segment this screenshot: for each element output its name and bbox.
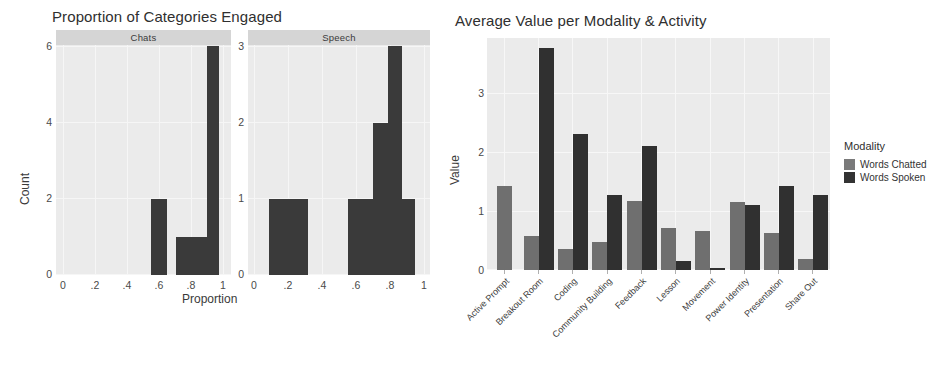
x-tick-label: 1	[220, 279, 226, 291]
bar-words-chatted	[730, 202, 745, 270]
right-chart-y-axis-title: Value	[448, 155, 462, 185]
x-tick-mark	[710, 270, 711, 274]
right-chart: Average Value per Modality & Activity Va…	[452, 0, 942, 388]
bar-words-chatted	[798, 259, 813, 270]
plot-area-speech	[248, 45, 430, 275]
x-tick-label: 0	[251, 279, 257, 291]
gridline	[56, 46, 231, 47]
legend-swatch-words-spoken	[844, 172, 855, 183]
bar-words-spoken	[779, 186, 794, 270]
legend-label: Words Spoken	[860, 172, 925, 183]
x-tick-label: .2	[91, 279, 100, 291]
figure-root: Proportion of Categories Engaged Count P…	[0, 0, 942, 388]
bar-words-spoken	[676, 261, 691, 270]
y-tick-label: 0	[46, 268, 52, 280]
x-tick-label: .4	[318, 279, 327, 291]
gridline	[248, 46, 430, 47]
x-tick-mark	[675, 270, 676, 274]
y-tick-label: 3	[238, 40, 244, 52]
left-chart-x-axis-title: Proportion	[182, 292, 237, 306]
legend-item-words-chatted: Words Chatted	[844, 159, 940, 170]
facet-strip-label: Chats	[131, 32, 157, 43]
plot-area	[487, 38, 830, 270]
legend: Modality Words Chatted Words Spoken	[844, 140, 940, 185]
x-tick-mark	[744, 270, 745, 274]
y-tick-label: 1	[238, 192, 244, 204]
bar-words-chatted	[661, 228, 676, 270]
legend-item-words-spoken: Words Spoken	[844, 172, 940, 183]
facet-strip-chats: Chats	[56, 30, 231, 45]
bar-words-spoken	[710, 268, 725, 270]
gridline	[223, 45, 224, 275]
y-tick-label: 0	[238, 268, 244, 280]
histogram-bar	[348, 199, 373, 275]
histogram-bar	[176, 237, 207, 275]
histogram-bar	[402, 199, 415, 275]
x-tick-mark	[572, 270, 573, 274]
plot-area-chats	[56, 45, 231, 275]
gridline	[127, 45, 128, 275]
right-chart-title: Average Value per Modality & Activity	[455, 12, 707, 29]
legend-label: Words Chatted	[860, 159, 927, 170]
legend-title: Modality	[844, 140, 940, 152]
gridline	[248, 122, 430, 123]
y-tick-label: 2	[472, 146, 484, 158]
histogram-bar	[151, 199, 167, 275]
gridline	[63, 45, 64, 275]
left-chart-y-axis-title: Count	[18, 173, 32, 205]
x-tick-mark	[607, 270, 608, 274]
gridline	[322, 45, 323, 275]
x-tick-label: .2	[284, 279, 293, 291]
x-tick-mark	[504, 270, 505, 274]
x-tick-label: .6	[155, 279, 164, 291]
y-tick-label: 0	[472, 264, 484, 276]
y-tick-label: 1	[472, 205, 484, 217]
left-chart-title: Proportion of Categories Engaged	[52, 8, 282, 25]
x-tick-mark	[538, 270, 539, 274]
facet-strip-label: Speech	[322, 32, 355, 43]
x-tick-label: .8	[187, 279, 196, 291]
bar-words-chatted	[764, 233, 779, 270]
gridline	[424, 45, 425, 275]
x-tick-label: .6	[352, 279, 361, 291]
bar-words-spoken	[539, 48, 554, 270]
histogram-bar	[373, 123, 388, 275]
histogram-bar	[207, 46, 219, 275]
bar-words-chatted	[497, 186, 512, 270]
histogram-bar	[388, 46, 402, 275]
histogram-bar	[269, 199, 308, 275]
x-tick-mark	[641, 270, 642, 274]
bar-words-spoken	[642, 146, 657, 270]
bar-words-spoken	[813, 195, 828, 270]
bar-words-chatted	[524, 236, 539, 270]
y-tick-label: 2	[238, 116, 244, 128]
x-tick-mark	[778, 270, 779, 274]
bar-words-spoken	[745, 205, 760, 270]
bar-words-chatted	[558, 249, 573, 270]
x-tick-label: .8	[386, 279, 395, 291]
gridline	[710, 38, 711, 270]
legend-swatch-words-chatted	[844, 159, 855, 170]
y-tick-label: 3	[472, 87, 484, 99]
x-tick-label: .4	[123, 279, 132, 291]
y-tick-label: 6	[46, 40, 52, 52]
y-tick-label: 2	[46, 192, 52, 204]
x-tick-mark	[812, 270, 813, 274]
left-chart: Proportion of Categories Engaged Count P…	[0, 0, 452, 320]
bar-words-spoken	[607, 195, 622, 270]
gridline	[95, 45, 96, 275]
y-tick-label: 4	[46, 116, 52, 128]
bar-words-spoken	[573, 134, 588, 270]
facet-strip-speech: Speech	[248, 30, 430, 45]
x-tick-label: 0	[60, 279, 66, 291]
bar-words-chatted	[695, 231, 710, 270]
gridline	[56, 198, 231, 199]
gridline	[254, 45, 255, 275]
x-tick-label: 1	[421, 279, 427, 291]
bar-words-chatted	[627, 201, 642, 270]
gridline	[56, 122, 231, 123]
bar-words-chatted	[592, 242, 607, 270]
